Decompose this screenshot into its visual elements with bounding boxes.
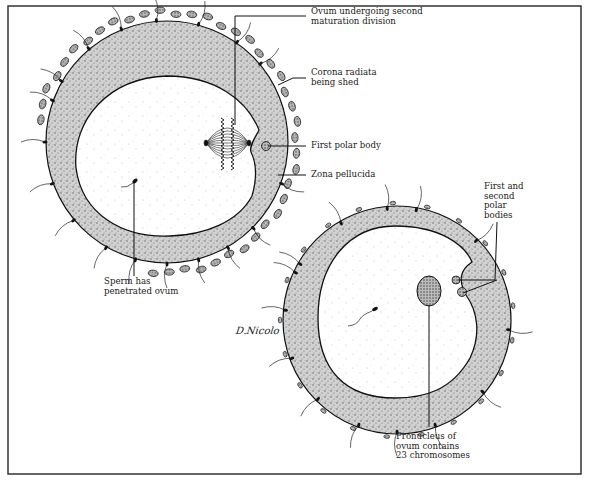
sperm-cell (21, 140, 48, 144)
pronucleus (417, 276, 441, 306)
corona-cell (82, 36, 94, 47)
corona-cell (293, 148, 300, 159)
corona-cell (272, 208, 283, 220)
corona-remnant (390, 201, 396, 205)
artist-signature: D.Nicolo (235, 325, 280, 336)
corona-cell (37, 114, 45, 125)
sperm-cell (55, 218, 76, 236)
corona-cell (124, 15, 135, 24)
corona-cell (215, 21, 227, 31)
label-sperm-penetrated: Sperm has penetrated ovum (104, 277, 178, 296)
corona-remnant (384, 435, 390, 439)
label-corona-radiata: Corona radiata being shed (311, 68, 377, 87)
corona-cell (38, 98, 47, 109)
figure: Ovum undergoing second maturation divisi… (0, 0, 590, 480)
corona-cell (155, 7, 165, 14)
corona-cell (230, 26, 242, 37)
corona-cell (276, 70, 287, 82)
sperm-cell (329, 202, 344, 226)
illustration (0, 0, 590, 480)
corona-cell (107, 16, 119, 26)
corona-cell (239, 243, 251, 254)
corona-cell (179, 265, 190, 273)
corona-remnant (424, 204, 431, 209)
corona-cell (259, 218, 270, 230)
corona-cell (292, 132, 299, 142)
corona-cell (59, 56, 70, 68)
ovum-stage-1 (21, 0, 304, 288)
label-pronucleus: Pronucleus of ovum contains 23 chromosom… (396, 432, 470, 461)
label-polar-bodies: First and second polar bodies (484, 182, 524, 220)
corona-cell (288, 101, 297, 112)
corona-cell (210, 258, 222, 268)
sperm-cell (196, 1, 205, 27)
label-ovum-division: Ovum undergoing second maturation divisi… (311, 7, 423, 26)
corona-cell (265, 58, 276, 70)
sperm-cell (94, 245, 109, 269)
corona-cell (283, 178, 292, 190)
label-zona-pellucida: Zona pellucida (311, 170, 375, 180)
corona-remnant (511, 303, 515, 309)
corona-remnant (510, 337, 515, 344)
cytoplasm-1 (76, 76, 259, 236)
corona-cell (186, 10, 197, 18)
corona-remnant (278, 317, 282, 323)
cytoplasm-2 (318, 226, 477, 398)
corona-cell (94, 25, 106, 36)
corona-cell (280, 86, 290, 98)
corona-cell (244, 34, 256, 45)
corona-cell (139, 10, 150, 18)
ovum-stage-2 (262, 185, 533, 457)
corona-cell (196, 265, 207, 274)
sperm-cell (480, 389, 501, 407)
sperm-cell (30, 181, 56, 191)
corona-cell (253, 47, 265, 59)
corona-cell (164, 269, 174, 276)
label-first-polar-body: First polar body (311, 141, 381, 151)
corona-cell (292, 164, 300, 175)
corona-cell (41, 82, 51, 94)
corona-cell (279, 193, 289, 205)
corona-cell (68, 43, 80, 55)
sperm-cell (301, 396, 321, 416)
corona-cell (293, 116, 301, 127)
corona-cell (171, 11, 181, 18)
